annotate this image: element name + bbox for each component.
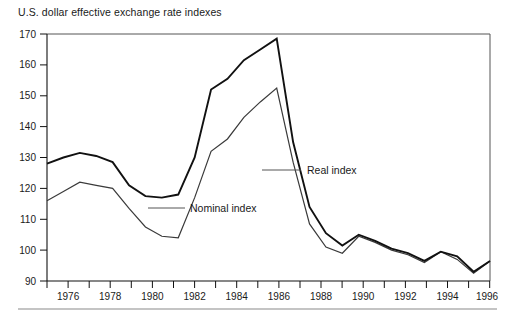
x-tick-label: 1988	[310, 291, 333, 302]
x-tick-label: 1982	[183, 291, 206, 302]
series-line-nominal-index	[47, 88, 490, 273]
x-axis-ticks	[47, 281, 490, 288]
x-tick-label: 1990	[352, 291, 375, 302]
y-tick-label: 170	[19, 29, 36, 40]
annotation-label-nominal-index: Nominal index	[190, 202, 257, 214]
x-tick-label: 1996	[476, 291, 499, 302]
y-tick-label: 140	[19, 121, 36, 132]
y-axis-ticks	[40, 34, 47, 281]
y-axis-tick-labels: 170 160 150 140 130 120 110 100 90	[19, 29, 36, 287]
y-tick-label: 120	[19, 183, 36, 194]
annotation-nominal-index: Nominal index	[148, 202, 257, 214]
annotation-real-index: Real index	[262, 164, 357, 176]
x-tick-label: 1980	[141, 291, 164, 302]
x-axis-tick-labels: 1976 1978 1980 1982 1984 1986 1988 1990 …	[57, 291, 499, 302]
y-tick-label: 90	[25, 276, 37, 287]
plot-frame	[47, 34, 490, 281]
exchange-rate-line-chart: 170 160 150 140 130 120 110 100 90	[0, 0, 509, 320]
x-tick-label: 1984	[226, 291, 249, 302]
x-tick-label: 1994	[436, 291, 459, 302]
y-tick-label: 100	[19, 245, 36, 256]
annotation-label-real-index: Real index	[307, 164, 357, 176]
x-axis: 1976 1978 1980 1982 1984 1986 1988 1990 …	[47, 281, 499, 302]
series-group	[47, 39, 490, 274]
x-tick-label: 1992	[394, 291, 417, 302]
chart-figure: U.S. dollar effective exchange rate inde…	[0, 0, 509, 320]
y-axis: 170 160 150 140 130 120 110 100 90	[19, 29, 47, 287]
y-tick-label: 130	[19, 152, 36, 163]
x-tick-label: 1986	[268, 291, 291, 302]
series-line-real-index	[47, 39, 490, 272]
x-tick-label: 1978	[99, 291, 122, 302]
x-tick-label: 1976	[57, 291, 80, 302]
y-tick-label: 110	[20, 214, 36, 225]
y-tick-label: 160	[19, 59, 36, 70]
y-tick-label: 150	[19, 90, 36, 101]
